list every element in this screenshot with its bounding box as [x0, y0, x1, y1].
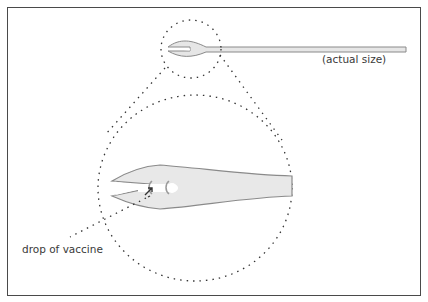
- needle-diagram: [0, 0, 428, 302]
- drop-of-vaccine-label: drop of vaccine: [22, 243, 103, 255]
- large-needle-icon: [112, 165, 292, 209]
- actual-size-label: (actual size): [322, 53, 386, 65]
- magnify-line-left: [105, 68, 165, 135]
- magnify-line-right: [220, 55, 282, 140]
